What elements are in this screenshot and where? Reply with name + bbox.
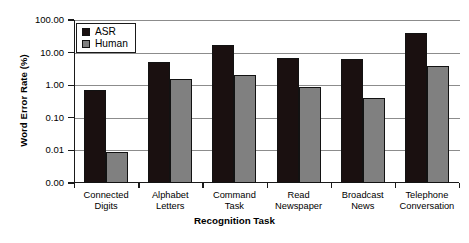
legend-label-human: Human [95,39,128,49]
x-category-label: CommandTask [197,190,271,212]
bar-human [363,98,385,183]
legend-item-human: Human [82,39,128,49]
bar-human [299,87,321,183]
x-tick-mark [74,183,75,188]
x-tick-mark [138,183,139,188]
x-category-label: BroadcastNews [326,190,400,212]
bar-group [331,20,395,183]
x-tick-mark [395,183,396,188]
bar-asr [148,62,170,183]
x-tick-mark [331,183,332,188]
bar-group [138,20,202,183]
y-tick-label: 100.00 [20,15,64,25]
x-category-label: ConnectedDigits [69,190,143,212]
bar-asr [405,33,427,183]
x-cat-line: Connected [69,190,143,201]
bar-human [427,66,449,183]
legend-item-asr: ASR [82,27,128,37]
legend-label-asr: ASR [95,27,116,37]
x-cat-line: News [326,201,400,212]
x-category-label: AlphabetLetters [133,190,207,212]
x-cat-line: Alphabet [133,190,207,201]
bar-asr [212,45,234,183]
x-tick-mark [202,183,203,188]
x-cat-line: Conversation [390,201,464,212]
bar-asr [277,58,299,183]
x-cat-line: Letters [133,201,207,212]
x-cat-line: Broadcast [326,190,400,201]
x-tick-mark [267,183,268,188]
bar-human [234,75,256,183]
y-tick-label: 1.00 [20,80,64,90]
chart-figure: Word Error Rate (%) 100.0010.001.000.100… [0,0,469,243]
bar-group [395,20,459,183]
bar-group [202,20,266,183]
x-cat-line: Task [197,201,271,212]
bar-group [267,20,331,183]
x-cat-line: Read [262,190,336,201]
y-tick-label: 0.10 [20,113,64,123]
bar-asr [341,59,363,183]
x-cat-line: Command [197,190,271,201]
x-category-label: TelephoneConversation [390,190,464,212]
y-tick-label: 10.00 [20,48,64,58]
x-cat-line: Digits [69,201,143,212]
x-tick-mark [459,183,460,188]
x-cat-line: Newspaper [262,201,336,212]
x-axis-title: Recognition Task [0,215,469,226]
y-tick-label: 0.01 [20,145,64,155]
bar-human [106,152,128,183]
x-category-label: ReadNewspaper [262,190,336,212]
y-tick-label: 0.00 [20,178,64,188]
legend-swatch-human [82,40,90,48]
chart-legend: ASR Human [76,23,136,53]
bar-human [170,79,192,183]
bar-asr [84,90,106,183]
x-cat-line: Telephone [390,190,464,201]
legend-swatch-asr [82,28,90,36]
